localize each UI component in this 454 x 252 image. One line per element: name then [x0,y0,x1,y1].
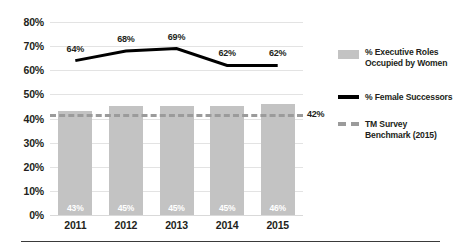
y-axis-tick-label: 0% [0,210,44,221]
line-value-label: 68% [117,35,134,44]
swatch-mark [338,50,359,59]
x-axis-tick-label: 2012 [115,220,138,231]
y-axis-tick-label: 20% [0,162,44,173]
x-axis-tick-label: 2014 [216,220,239,231]
legend-label-line2: Occupied by Women [365,58,447,69]
line-value-label: 69% [168,33,185,42]
legend-label-line1: % Female Successors [365,92,452,103]
x-axis: 20112012201320142015 [50,218,303,238]
y-axis-tick-label: 60% [0,65,44,76]
footer-divider [21,241,440,242]
y-axis-tick-label: 40% [0,113,44,124]
line-value-label: 64% [67,45,84,54]
legend-label-line2: Benchmark (2015) [365,130,437,141]
x-axis-tick-label: 2011 [64,220,86,231]
swatch-mark [338,122,359,126]
legend-label: TM SurveyBenchmark (2015) [365,119,437,142]
line-value-label: 62% [218,49,235,58]
chart-container: 43%45%45%45%46% 64%68%69%62%62% 80%70%60… [0,0,454,252]
benchmark-dashed-line [50,114,303,117]
legend-item-2: % Female Successors [338,92,454,103]
y-axis-tick-label: 50% [0,89,44,100]
legend-label: % Female Successors [365,92,452,103]
y-axis-tick-label: 80% [0,17,44,28]
legend-label: % Executive RolesOccupied by Women [365,47,447,70]
y-axis-tick-label: 30% [0,137,44,148]
swatch-mark [338,95,359,99]
x-axis-tick-label: 2013 [165,220,188,231]
legend-item-1: % Executive RolesOccupied by Women [338,47,454,70]
line-swatch-icon [338,95,359,99]
bar-swatch-icon [338,50,359,59]
gridline [50,215,303,216]
y-axis-tick-label: 10% [0,186,44,197]
x-axis-tick-label: 2015 [266,220,289,231]
plot-area: 43%45%45%45%46% 64%68%69%62%62% [50,22,303,215]
line-value-label: 62% [269,49,286,58]
dashed-swatch-icon [338,122,359,126]
female-successors-line [50,22,303,215]
legend-item-3: TM SurveyBenchmark (2015) [338,119,454,142]
legend-label-line1: TM Survey [365,119,437,130]
benchmark-value-label: 42% [307,109,324,118]
y-axis: 80%70%60%50%40%30%20%10%0% [0,22,44,215]
legend-label-line1: % Executive Roles [365,47,447,58]
y-axis-tick-label: 70% [0,41,44,52]
